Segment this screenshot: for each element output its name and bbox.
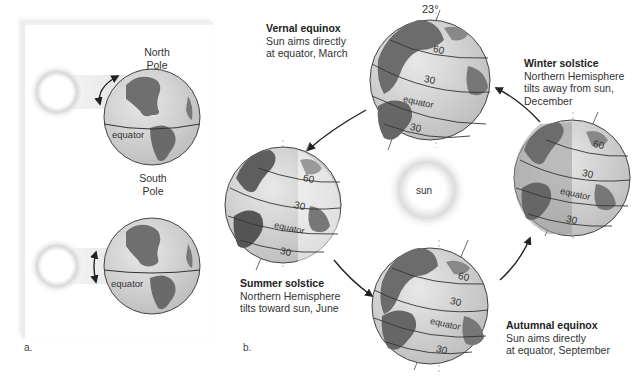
caption-title: Vernal equinox	[266, 22, 348, 35]
caption-title: Summer solstice	[240, 277, 340, 290]
caption-title: Winter solstice	[524, 57, 624, 70]
caption-title: Autumnal equinox	[506, 319, 610, 332]
caption-autumnal-equinox: Autumnal equinox Sun aims directly at eq…	[506, 319, 610, 357]
sun-icon	[29, 238, 85, 294]
sun-label: sun	[416, 185, 432, 198]
equator-label: equator	[111, 278, 143, 291]
equator-label: equator	[112, 129, 144, 142]
sun-icon	[29, 64, 85, 120]
panel-a-top-illustration	[29, 64, 200, 165]
globe-icon	[104, 218, 200, 314]
globe-autumnal-equinox	[372, 240, 488, 372]
caption-winter-solstice: Winter solstice Northern Hemisphere tilt…	[524, 57, 624, 107]
caption-summer-solstice: Summer solstice Northern Hemisphere tilt…	[240, 277, 340, 315]
orbit-arrow-icon	[308, 110, 366, 150]
panel-a-bottom-illustration	[29, 218, 200, 314]
panel-b-label: b.	[243, 342, 251, 353]
panel-a-label: a.	[24, 342, 32, 353]
globe-icon	[104, 69, 200, 165]
caption-vernal-equinox: Vernal equinox Sun aims directly at equa…	[266, 22, 348, 60]
south-pole-label: South Pole	[128, 172, 178, 197]
orbit-arrow-icon	[500, 238, 530, 280]
north-pole-label: North Pole	[132, 46, 182, 71]
tilt-angle-label: 23°	[422, 3, 439, 16]
